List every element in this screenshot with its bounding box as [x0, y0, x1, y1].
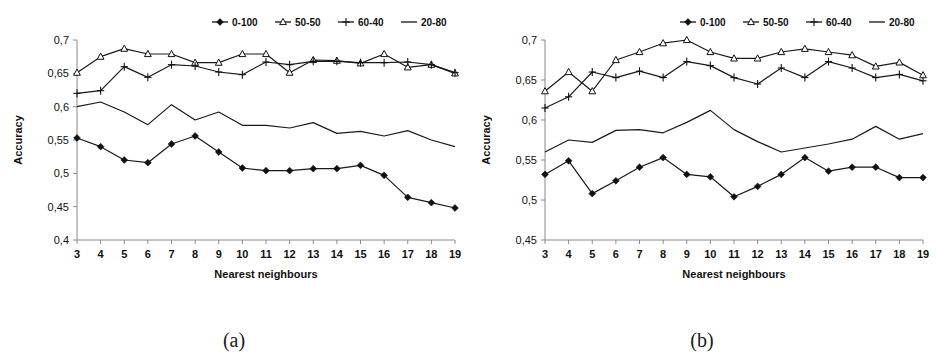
- marker-triangle: [381, 50, 388, 56]
- marker-diamond: [754, 183, 761, 190]
- x-axis-tick-label: 17: [870, 248, 882, 260]
- y-axis-tick-label: 0,45: [516, 234, 537, 246]
- series-line: [77, 61, 455, 93]
- panel-a: 0,70,650,60,550,50,450,43456789101112131…: [0, 0, 468, 360]
- marker-diamond: [920, 174, 927, 181]
- x-axis-tick-label: 13: [307, 248, 319, 260]
- marker-diamond: [612, 177, 619, 184]
- series-line: [545, 40, 923, 91]
- x-axis-title: Nearest neighbours: [214, 268, 317, 280]
- x-axis-tick-label: 7: [168, 248, 174, 260]
- figure-two-panel-line-charts: 0,70,650,60,550,50,450,43456789101112131…: [0, 0, 936, 360]
- y-axis-title: Accuracy: [12, 114, 24, 164]
- x-axis-tick-label: 19: [449, 248, 461, 260]
- x-axis-tick-label: 10: [236, 248, 248, 260]
- x-axis-tick-label: 12: [284, 248, 296, 260]
- x-axis-tick-label: 8: [660, 248, 666, 260]
- x-axis-tick-label: 15: [354, 248, 366, 260]
- marker-triangle: [801, 45, 808, 51]
- legend: 0-10050-5060-4020-80: [212, 17, 447, 28]
- marker-diamond: [849, 164, 856, 171]
- chart-b-canvas: 0,70,650,60,550,50,453456789101112131415…: [468, 0, 936, 290]
- panel-a-caption: (a): [0, 329, 468, 352]
- marker-diamond: [310, 165, 317, 172]
- x-axis-tick-label: 13: [775, 248, 787, 260]
- x-axis-tick-label: 6: [145, 248, 151, 260]
- legend-label-50-50[interactable]: 50-50: [763, 17, 789, 28]
- chart-a: 0,70,650,60,550,50,450,43456789101112131…: [0, 0, 468, 290]
- series-20-80: [77, 102, 455, 147]
- legend-label-50-50[interactable]: 50-50: [295, 17, 321, 28]
- y-axis-tick-label: 0,45: [48, 201, 69, 213]
- panel-b: 0,70,650,60,550,50,453456789101112131415…: [468, 0, 936, 360]
- marker-diamond: [215, 149, 222, 156]
- panel-b-caption: (b): [468, 329, 936, 352]
- x-axis-tick-label: 3: [542, 248, 548, 260]
- series-line: [545, 110, 923, 152]
- chart-a-canvas: 0,70,650,60,550,50,450,43456789101112131…: [0, 0, 468, 290]
- series-line: [545, 62, 923, 108]
- legend-label-0-100[interactable]: 0-100: [232, 17, 258, 28]
- x-axis-tick-label: 15: [822, 248, 834, 260]
- marker-diamond: [452, 205, 459, 212]
- y-axis-title: Accuracy: [480, 114, 492, 164]
- y-axis-tick-label: 0,55: [516, 154, 537, 166]
- legend: 0-10050-5060-4020-80: [680, 17, 915, 28]
- x-axis-tick-label: 7: [636, 248, 642, 260]
- marker-diamond: [121, 157, 128, 164]
- x-axis-tick-label: 14: [799, 248, 812, 260]
- y-axis-tick-label: 0,6: [522, 114, 537, 126]
- x-axis-tick-label: 8: [192, 248, 198, 260]
- y-axis-tick-label: 0,6: [54, 101, 69, 113]
- marker-diamond: [825, 168, 832, 175]
- legend-label-20-80[interactable]: 20-80: [889, 17, 915, 28]
- marker-diamond: [239, 165, 246, 172]
- marker-triangle: [286, 69, 293, 75]
- marker-diamond: [428, 199, 435, 206]
- marker-triangle: [121, 45, 128, 51]
- x-axis-tick-label: 9: [216, 248, 222, 260]
- x-axis-tick-label: 18: [893, 248, 905, 260]
- series-50-50: [542, 36, 927, 93]
- x-axis-tick-label: 3: [74, 248, 80, 260]
- y-axis-tick-label: 0,5: [522, 194, 537, 206]
- marker-triangle: [74, 69, 81, 75]
- x-axis-tick-label: 4: [566, 248, 573, 260]
- x-axis-tick-label: 10: [704, 248, 716, 260]
- legend-label-60-40[interactable]: 60-40: [358, 17, 384, 28]
- y-axis-tick-label: 0,7: [522, 34, 537, 46]
- marker-diamond: [97, 143, 104, 150]
- marker-diamond: [217, 19, 224, 26]
- legend-label-60-40[interactable]: 60-40: [826, 17, 852, 28]
- x-axis-tick-label: 16: [846, 248, 858, 260]
- marker-diamond: [357, 162, 364, 169]
- marker-diamond: [333, 165, 340, 172]
- marker-triangle: [707, 48, 714, 54]
- marker-triangle: [565, 68, 572, 74]
- y-axis-tick-label: 0,55: [48, 134, 69, 146]
- series-20-80: [545, 110, 923, 152]
- legend-label-20-80[interactable]: 20-80: [421, 17, 447, 28]
- series-60-40: [541, 58, 926, 112]
- x-axis-tick-label: 9: [684, 248, 690, 260]
- y-axis-tick-label: 0,65: [516, 74, 537, 86]
- x-axis-tick-label: 6: [613, 248, 619, 260]
- x-axis-tick-label: 12: [752, 248, 764, 260]
- y-axis-tick-label: 0,65: [48, 67, 69, 79]
- x-axis-tick-label: 5: [589, 248, 595, 260]
- x-axis-tick-label: 5: [121, 248, 127, 260]
- series-line: [545, 158, 923, 197]
- marker-diamond: [286, 167, 293, 174]
- marker-diamond: [636, 164, 643, 171]
- x-axis-tick-label: 17: [402, 248, 414, 260]
- chart-b: 0,70,650,60,550,50,453456789101112131415…: [468, 0, 936, 290]
- marker-diamond: [872, 164, 879, 171]
- marker-diamond: [542, 171, 549, 178]
- x-axis-tick-label: 4: [98, 248, 105, 260]
- marker-diamond: [896, 174, 903, 181]
- legend-label-0-100[interactable]: 0-100: [700, 17, 726, 28]
- x-axis-tick-label: 11: [260, 248, 272, 260]
- x-axis-tick-label: 14: [331, 248, 344, 260]
- marker-triangle: [896, 59, 903, 65]
- x-axis-tick-label: 18: [425, 248, 437, 260]
